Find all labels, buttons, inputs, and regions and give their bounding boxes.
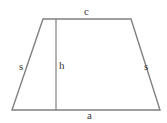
- label-height-h: h: [59, 60, 65, 71]
- trapezoid-drawing: [0, 0, 167, 123]
- label-left-side-s: s: [19, 61, 23, 72]
- label-bottom-side-a: a: [87, 110, 92, 121]
- label-top-side-c: c: [84, 6, 89, 17]
- trapezoid-outline: [12, 19, 160, 110]
- trapezoid-figure: c a h s s: [0, 0, 167, 123]
- label-right-side-s: s: [144, 61, 148, 72]
